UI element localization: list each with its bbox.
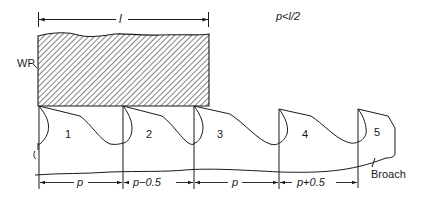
- tooth-number-3: 3: [217, 129, 223, 140]
- tooth-number-4: 4: [302, 129, 308, 140]
- workpiece-label: WP: [17, 58, 35, 69]
- condition-label: p<l/2: [276, 11, 300, 22]
- pitch-label-3: p: [232, 177, 238, 188]
- tooth-number-1: 1: [65, 129, 71, 140]
- tooth-number-2: 2: [146, 129, 152, 140]
- broach-label: Broach: [371, 169, 406, 180]
- tooth-number-5: 5: [374, 127, 380, 138]
- pitch-label-2: p−0.5: [133, 177, 161, 188]
- pitch-label-1: p: [77, 177, 83, 188]
- length-label: l: [119, 13, 122, 25]
- diagram-drawing: [0, 0, 423, 204]
- broaching-diagram: l WP p<l/2 1 2 3 4 5 Broach p p−0.5 p p+…: [0, 0, 423, 204]
- broach-profile: [34, 106, 395, 175]
- length-dimension: [39, 12, 209, 27]
- pitch-label-4: p+0.5: [297, 177, 325, 188]
- workpiece: [38, 33, 209, 106]
